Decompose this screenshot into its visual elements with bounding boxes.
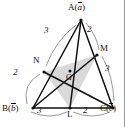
vertex-label-B-close: ) — [16, 103, 19, 113]
point-label-M: M — [100, 44, 108, 53]
ratio-label-MC: 3 — [105, 64, 110, 73]
ratio-label-NB: 2 — [13, 68, 18, 77]
vertex-label-C: C(c) — [100, 103, 116, 113]
vertex-label-A: A(a) — [68, 2, 85, 12]
point-M — [95, 53, 98, 56]
point-B — [31, 106, 34, 109]
ratio-label-BL: 3 — [37, 106, 42, 115]
page-edge-rule — [124, 0, 125, 127]
ratio-label-AM: 2 — [87, 25, 92, 34]
point-A — [79, 18, 82, 21]
vertex-label-B-name: B( — [2, 103, 11, 113]
point-N — [42, 70, 45, 73]
vertex-label-A-close: ) — [82, 2, 85, 12]
vertex-label-C-close: ) — [113, 103, 116, 113]
point-label-L: L — [67, 110, 73, 119]
arc-AN — [46, 25, 76, 66]
point-label-N: N — [33, 56, 40, 65]
ratio-label-LC: 2 — [83, 106, 88, 115]
ratio-label-AN: 3 — [44, 26, 49, 35]
vertex-label-B: B(b) — [2, 103, 19, 113]
vertex-label-C-name: C( — [100, 103, 109, 113]
point-label-G: G — [66, 74, 72, 82]
vertex-label-A-name: A( — [68, 2, 78, 12]
geometry-figure: A(a) B(b) C(c) N M L G 3 2 2 3 3 2 — [0, 0, 125, 127]
